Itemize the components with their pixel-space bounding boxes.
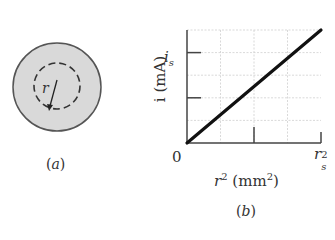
caption-a: (a) [46,156,65,172]
x-tick-label-var: r [314,145,321,163]
caption-b: (b) [236,203,256,219]
outer-circle [13,43,101,131]
caption-b-letter: b [241,203,250,219]
x-axis-label-unit: (mm [232,172,266,190]
x-tick-label-sup: 2 [321,149,327,160]
x-tick-label-sub: s [321,161,326,172]
panel-a-diagram [13,43,101,131]
x-origin-label: 0 [172,148,182,166]
x-tick-label-rs2: r2s [314,145,329,163]
x-axis-label: r2 (mm2) [214,171,279,190]
caption-a-letter: a [51,156,59,172]
x-axis-label-close: ) [273,172,279,190]
radius-label: r [42,80,49,96]
y-tick-label-sub: s [169,57,174,68]
x-axis-label-sup: 2 [221,171,227,182]
y-axis-label: i (mA) [151,39,169,119]
